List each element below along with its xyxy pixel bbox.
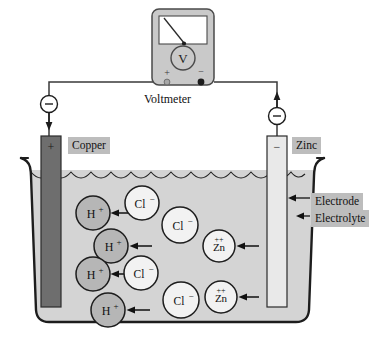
svg-text:H: H: [87, 207, 96, 221]
svg-text:Cl: Cl: [135, 198, 146, 210]
svg-text:+: +: [113, 301, 118, 311]
svg-text:H: H: [102, 304, 111, 318]
zinc-electrode-polarity: −: [274, 140, 281, 154]
electron-left: [41, 96, 58, 131]
zinc-electrode: −: [267, 136, 287, 307]
svg-text:H: H: [87, 268, 96, 282]
wire-right: [214, 82, 277, 136]
electron-right-arrow-head: [274, 92, 281, 101]
voltmeter-dial-symbol: V: [178, 51, 188, 66]
svg-text:−: −: [188, 291, 193, 301]
copper-label: Copper: [68, 137, 110, 154]
voltmeter-positive-terminal[interactable]: [164, 79, 170, 85]
copper-electrode: +: [41, 136, 61, 307]
zinc-label: Zinc: [292, 137, 321, 154]
svg-text:Cl: Cl: [173, 220, 184, 232]
voltmeter-needle-pivot: [182, 41, 186, 45]
voltmeter-caption: Voltmeter: [144, 92, 191, 107]
svg-text:−: −: [187, 216, 192, 226]
svg-text:−: −: [149, 194, 154, 204]
electrolyte-label: Electrolyte: [311, 210, 369, 227]
svg-text:++: ++: [216, 286, 226, 295]
voltmeter[interactable]: V + −: [152, 9, 214, 85]
ion-cl-3: Cl −: [124, 256, 158, 290]
svg-text:H: H: [105, 240, 114, 254]
voltmeter-minus-terminal-label: −: [198, 66, 204, 77]
wire-left: [49, 82, 167, 136]
svg-text:Cl: Cl: [174, 295, 185, 307]
copper-electrode-polarity: +: [48, 140, 55, 154]
circuit-wires: [49, 82, 277, 136]
diagram-canvas: + − H + H + H: [0, 0, 383, 344]
copper-electrode-bar: [41, 136, 61, 307]
electrode-label: Electrode: [311, 193, 363, 210]
electron-right: [269, 92, 286, 125]
svg-text:+: +: [98, 265, 103, 275]
voltmeter-negative-terminal[interactable]: [198, 79, 205, 86]
ion-cl-1: Cl −: [125, 186, 159, 220]
zinc-electrode-bar: [267, 136, 287, 307]
svg-text:+: +: [116, 237, 121, 247]
svg-text:++: ++: [214, 235, 224, 244]
svg-text:+: +: [98, 204, 103, 214]
electron-left-arrow-head: [46, 122, 53, 131]
ion-cl-4: Cl −: [163, 282, 199, 318]
electrochemical-cell-diagram: + − H + H + H: [0, 0, 383, 344]
ion-cl-2: Cl −: [162, 207, 198, 243]
svg-text:Cl: Cl: [134, 268, 145, 280]
voltmeter-plus-terminal-label: +: [164, 67, 170, 78]
svg-text:−: −: [148, 264, 153, 274]
